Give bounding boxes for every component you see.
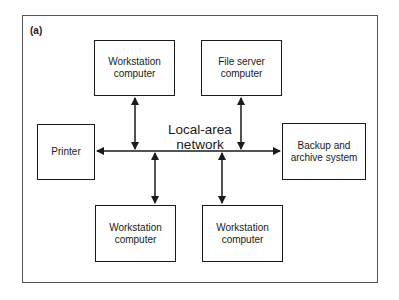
node-workstation-bottom-right: Workstation computer [202,205,283,262]
node-label: File server computer [218,56,265,80]
node-label: Workstation computer [216,222,269,246]
node-label: Workstation computer [109,222,162,246]
node-label: Backup and archive system [291,140,358,164]
node-backup: Backup and archive system [282,123,366,180]
lan-label: Local-area network [150,122,250,152]
node-label: Printer [51,146,80,158]
node-workstation-top: Workstation computer [94,40,175,96]
node-label: Workstation computer [108,56,161,80]
node-printer: Printer [37,124,95,180]
node-file-server: File server computer [201,40,282,96]
node-workstation-bottom-left: Workstation computer [95,205,176,262]
